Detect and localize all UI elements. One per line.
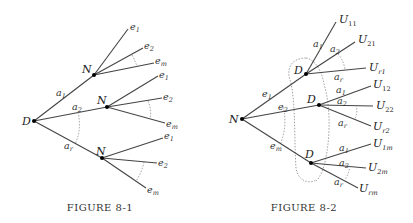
- figure-8-1: D N N N a1 a2 ar e1 e2 em e1 e2 em e1 e2…: [21, 21, 178, 213]
- edge-leaf: [102, 158, 146, 188]
- edge-leaf: [102, 138, 163, 158]
- leaf-label: U11: [339, 13, 357, 28]
- edge-label: ar: [334, 176, 344, 189]
- leaf-label: e1: [164, 130, 174, 143]
- figure-caption: FIGURE 8-1: [67, 202, 133, 213]
- node-label: N: [95, 145, 106, 158]
- leaf-label: U1m: [373, 137, 393, 152]
- root-label: D: [21, 115, 31, 128]
- leaf-label: em: [155, 55, 167, 68]
- leaf-label: e2: [158, 157, 168, 170]
- edge-e1: [242, 74, 306, 119]
- edge-label: e1: [262, 88, 272, 101]
- leaf-label: Ur1: [369, 61, 386, 76]
- edge-label: a1: [339, 142, 349, 155]
- node-label: N: [96, 94, 107, 107]
- edge-label: em: [270, 140, 282, 153]
- edge-label: a2: [330, 43, 340, 56]
- figures-canvas: D N N N a1 a2 ar e1 e2 em e1 e2 em e1 e2…: [0, 0, 413, 223]
- figure-8-2: N D D D e1 e2 em a1 a2 ar a1 a2 ar a1 a2…: [228, 13, 394, 213]
- leaf-label: Ur2: [373, 120, 390, 135]
- leaf-label: U21: [358, 33, 376, 48]
- node-root: [240, 117, 244, 121]
- edge-leaf: [102, 158, 157, 163]
- angle-arc: [148, 101, 151, 119]
- edge-label: a1: [56, 87, 66, 100]
- edge-label: ar: [338, 117, 348, 130]
- edge-label: a2: [339, 157, 349, 170]
- figure-caption: FIGURE 8-2: [271, 202, 337, 213]
- node: [304, 72, 308, 76]
- leaf-label: e2: [144, 40, 154, 53]
- node-label: D: [306, 93, 316, 106]
- edge-label: a1: [313, 38, 323, 51]
- leaf-label: U22: [376, 99, 394, 114]
- edge-label: a2: [72, 101, 82, 114]
- leaf-label: e1: [130, 21, 140, 34]
- node-label: D: [293, 64, 303, 77]
- node-label: N: [81, 63, 92, 76]
- edge-leaf: [107, 107, 165, 123]
- angle-arc: [136, 162, 144, 181]
- edge-leaf: [94, 48, 143, 75]
- node: [309, 161, 313, 165]
- edge-a2: [34, 107, 107, 121]
- angle-arc: [132, 55, 137, 66]
- edge-label: ar: [334, 71, 344, 84]
- angle-arc-root: [75, 112, 79, 144]
- node-label: D: [304, 148, 314, 161]
- node-root: [32, 119, 36, 123]
- leaf-label: U12: [373, 78, 391, 93]
- edge-leaf: [94, 63, 154, 75]
- node: [317, 103, 321, 107]
- leaf-label: e1: [159, 69, 169, 82]
- leaf-label: Urm: [359, 182, 378, 197]
- angle-arc: [355, 105, 357, 119]
- angle-arc: [338, 54, 345, 70]
- edge-leaf: [94, 29, 128, 75]
- edge-em: [242, 119, 311, 163]
- leaf-label: U2m: [368, 161, 388, 176]
- leaf-label: em: [147, 184, 159, 197]
- leaf-label: e2: [163, 91, 173, 104]
- root-label: N: [228, 113, 239, 126]
- node: [92, 73, 96, 77]
